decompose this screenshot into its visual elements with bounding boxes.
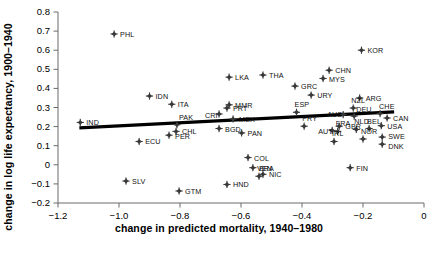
- x-tick-label: −1.2: [38, 210, 78, 221]
- y-tick-label: 0: [20, 159, 50, 170]
- y-tick-label: 0.8: [20, 6, 50, 17]
- point-label: SWE: [388, 132, 405, 141]
- data-point: [293, 109, 300, 116]
- point-label: THA: [269, 71, 284, 80]
- point-label: IND: [86, 118, 99, 127]
- point-label: URY: [317, 91, 332, 100]
- point-label: GTM: [185, 187, 201, 196]
- data-point: [165, 132, 172, 139]
- data-point: [319, 75, 326, 82]
- point-label: NZL: [351, 96, 365, 105]
- point-label: ESP: [295, 100, 310, 109]
- data-point: [146, 92, 153, 99]
- point-label: PAK: [179, 113, 193, 122]
- data-point: [330, 138, 337, 145]
- point-label: MEX: [239, 115, 255, 124]
- x-tick-label: −0.2: [343, 210, 383, 221]
- point-label: FIN: [356, 164, 368, 173]
- point-label: BGD: [225, 125, 241, 134]
- y-axis-title: change in log life expectancy, 1900–1940: [0, 0, 16, 254]
- data-point: [358, 47, 365, 54]
- point-label: PHL: [120, 30, 134, 39]
- data-point: [259, 71, 266, 78]
- scatter-chart-figure: change in log life expectancy, 1900–1940…: [0, 0, 438, 254]
- y-tick-label: 0.7: [20, 25, 50, 36]
- data-point: [249, 164, 256, 171]
- point-label: FRA: [336, 119, 351, 128]
- point-label: IDN: [156, 92, 169, 101]
- point-label: DEU: [356, 105, 371, 114]
- y-axis-title-text: change in log life expectancy, 1900–1940: [2, 23, 14, 231]
- y-tick-label: 0.1: [20, 140, 50, 151]
- point-label: CRI: [205, 111, 218, 120]
- data-point: [347, 164, 354, 171]
- point-label: DNK: [388, 142, 403, 151]
- data-point: [226, 74, 233, 81]
- data-point: [308, 91, 315, 98]
- data-point: [244, 154, 251, 161]
- y-tick-label: 0.4: [20, 82, 50, 93]
- data-point: [379, 141, 386, 148]
- point-label: VEN: [257, 164, 272, 173]
- data-point: [168, 101, 175, 108]
- point-label: AUS: [327, 110, 342, 119]
- point-label: KOR: [367, 46, 383, 55]
- data-point: [111, 30, 118, 37]
- point-label: AUT: [318, 127, 333, 136]
- data-point: [301, 123, 308, 130]
- x-tick-label: −1.0: [99, 210, 139, 221]
- data-point: [359, 135, 366, 142]
- y-tick-label: 0.6: [20, 44, 50, 55]
- y-tick-label: −0.1: [20, 178, 50, 189]
- point-label: CHE: [379, 102, 394, 111]
- point-label: PRT: [233, 104, 248, 113]
- data-point: [215, 125, 222, 132]
- point-label: LKA: [235, 73, 249, 82]
- point-label: USA: [387, 122, 402, 131]
- point-label: ITA: [178, 100, 189, 109]
- point-label: NOR: [361, 127, 377, 136]
- point-label: GRC: [301, 82, 317, 91]
- point-label: ECU: [145, 137, 160, 146]
- y-tick-label: −0.2: [20, 197, 50, 208]
- data-point: [136, 138, 143, 145]
- point-label: PRY: [302, 114, 317, 123]
- point-label: MYS: [329, 75, 345, 84]
- data-point: [291, 83, 298, 90]
- data-point: [326, 67, 333, 74]
- data-point: [223, 181, 230, 188]
- data-point: [379, 134, 386, 141]
- point-label: CHN: [335, 66, 351, 75]
- data-point: [175, 187, 182, 194]
- x-tick-label: −0.8: [160, 210, 200, 221]
- x-tick-label: −0.6: [221, 210, 261, 221]
- y-tick-label: 0.2: [20, 121, 50, 132]
- point-label: COL: [254, 154, 269, 163]
- point-label: SLV: [132, 177, 145, 186]
- y-tick-label: 0.5: [20, 63, 50, 74]
- data-point: [77, 119, 84, 126]
- data-point: [122, 177, 129, 184]
- point-label: BEL: [367, 117, 381, 126]
- x-tick-label: 0: [404, 210, 438, 221]
- point-label: HND: [233, 180, 249, 189]
- x-tick-label: −0.4: [282, 210, 322, 221]
- point-label: IRL: [332, 129, 344, 138]
- y-tick-label: 0.3: [20, 102, 50, 113]
- point-label: PER: [175, 132, 190, 141]
- point-label: PAN: [248, 129, 263, 138]
- data-point: [383, 114, 390, 121]
- x-axis-title: change in predicted mortality, 1940–1980: [0, 222, 438, 234]
